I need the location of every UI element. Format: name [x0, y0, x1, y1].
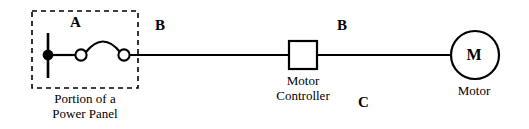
- label-segment-b-right: B: [337, 17, 347, 34]
- label-segment-b-left: B: [155, 17, 165, 34]
- label-segment-c: C: [358, 94, 369, 111]
- switch-contact-right: [118, 49, 129, 60]
- motor-controller-caption-line2: Controller: [276, 89, 329, 104]
- switch-contact-left: [75, 49, 86, 60]
- junction-dot: [43, 50, 54, 61]
- motor-controller-box: [289, 41, 317, 69]
- motor-symbol-letter: M: [466, 46, 481, 64]
- motor-caption: Motor: [458, 84, 491, 99]
- label-segment-a: A: [70, 14, 81, 31]
- power-panel-caption-line2: Power Panel: [52, 107, 117, 122]
- power-panel-caption: Portion of a Power Panel: [52, 92, 117, 122]
- switch-blade-arc: [86, 42, 120, 53]
- power-panel-caption-line1: Portion of a: [52, 92, 117, 107]
- circuit-diagram: A B B C M Motor Motor Controller Portion…: [0, 0, 529, 129]
- motor-controller-caption-line1: Motor: [276, 74, 329, 89]
- motor-controller-caption: Motor Controller: [276, 74, 329, 104]
